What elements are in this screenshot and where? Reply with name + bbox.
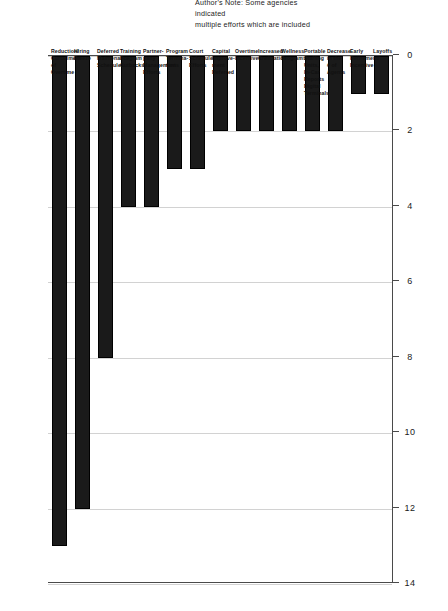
category-label: Early Retirement/ Incentive (350, 48, 372, 69)
axis-tick-label: 0 (401, 50, 419, 60)
category-label: Partner- pany Management Efforts (143, 48, 165, 76)
bar-series (48, 56, 392, 582)
bar (167, 56, 182, 169)
category-label: Increased Civilization (258, 48, 280, 62)
rotated-figure: 02468101214 Reduction/ Curtailment of Ov… (0, 0, 448, 611)
axis-tick-mark (393, 582, 399, 583)
bar (374, 56, 389, 94)
category-label: Overtime Incentives (235, 48, 257, 62)
axis-tick-mark (393, 431, 399, 432)
bar (236, 56, 251, 131)
bar-row (328, 56, 343, 584)
bar-row (190, 56, 205, 584)
bar-row (167, 56, 182, 584)
axis-tick-label: 4 (401, 201, 419, 211)
bar-row (259, 56, 274, 584)
bar (144, 56, 159, 207)
axis-tick-mark (393, 507, 399, 508)
gridline (48, 584, 392, 585)
plot-area (48, 55, 393, 583)
axis-tick-mark (393, 205, 399, 206)
axis-tick-mark (393, 356, 399, 357)
category-label: Wellness Programs (281, 48, 303, 62)
bar (121, 56, 136, 207)
bar-row (236, 56, 251, 584)
chart-canvas: 02468101214 Reduction/ Curtailment of Ov… (0, 0, 448, 611)
bar-row (351, 56, 366, 584)
bar-row (75, 56, 90, 584)
bar-row (374, 56, 389, 584)
category-label: Program Termina- tions (166, 48, 188, 69)
axis-tick-mark (393, 280, 399, 281)
category-label: Deferred Maintenance Schedules (97, 48, 119, 69)
bar-row (305, 56, 320, 584)
axis-tick-label: 12 (401, 503, 419, 513)
bar-row (282, 56, 297, 584)
bar (190, 56, 205, 169)
category-label: Hiring Freeze (74, 48, 96, 62)
category-label: Reduction/ Curtailment of Overtime (51, 48, 73, 76)
bar-row (213, 56, 228, 584)
bar-row (121, 56, 136, 584)
category-label: Decrease in the # of Agents (327, 48, 349, 76)
bar (52, 56, 67, 546)
bar-row (144, 56, 159, 584)
bar (259, 56, 274, 131)
bar-row (52, 56, 67, 584)
axis-tick-label: 8 (401, 352, 419, 362)
axis-tick-label: 14 (401, 578, 419, 588)
axis-tick-label: 6 (401, 276, 419, 286)
axis-tick-mark (393, 129, 399, 130)
category-label: Portable Staffing Units, In-Car Reports … (304, 48, 326, 97)
bar (282, 56, 297, 131)
bar-row (98, 56, 113, 584)
category-label: Training Program Cutbacks (120, 48, 142, 69)
axis-tick-label: 2 (401, 125, 419, 135)
bar (75, 56, 90, 509)
category-label: Capital Improve- ment Deferred (212, 48, 234, 76)
bar (98, 56, 113, 358)
axis-tick-label: 10 (401, 427, 419, 437)
authors-note: Author's Note: Some agencies indicated m… (195, 0, 315, 30)
category-label: Layoffs (373, 48, 395, 55)
category-label: Court Schedule Efforts (189, 48, 211, 69)
